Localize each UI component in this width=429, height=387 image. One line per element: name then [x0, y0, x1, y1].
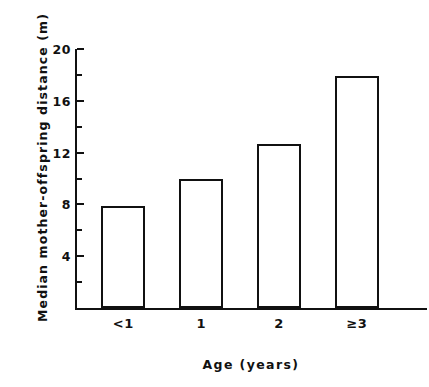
y-axis-minor-tick: [77, 126, 82, 128]
bar: [179, 179, 223, 309]
y-axis-major-tick: 4: [77, 255, 84, 257]
y-axis-tick-label: 16: [53, 93, 71, 108]
y-axis-tick-label: 8: [62, 197, 71, 212]
y-axis-tick-label: 4: [62, 249, 71, 264]
y-axis-minor-tick: [77, 178, 82, 180]
y-axis-minor-tick: [77, 281, 82, 283]
y-axis-major-tick: 16: [77, 100, 84, 102]
y-axis-major-tick: 12: [77, 152, 84, 154]
bar: [335, 76, 379, 308]
x-axis-title: Age (years): [75, 357, 427, 372]
y-axis-tick-label: 20: [53, 42, 71, 57]
plot-area: 48121620 <112≥3: [75, 49, 427, 310]
y-axis-major-tick: 20: [77, 48, 84, 50]
y-axis-line: [75, 49, 77, 310]
y-axis-tick-label: 12: [53, 145, 71, 160]
x-axis-tick-label: ≥3: [317, 316, 397, 331]
y-axis-minor-tick: [77, 74, 82, 76]
bar: [257, 144, 301, 308]
x-axis-tick-label: <1: [83, 316, 163, 331]
bar: [101, 206, 145, 308]
x-axis-tick-label: 1: [161, 316, 241, 331]
bar-chart-figure: Median mother-offspring distance (m) 481…: [0, 0, 429, 387]
x-axis-tick-label: 2: [239, 316, 319, 331]
x-axis-line: [75, 308, 427, 310]
y-axis-major-tick: 8: [77, 203, 84, 205]
y-axis-minor-tick: [77, 229, 82, 231]
